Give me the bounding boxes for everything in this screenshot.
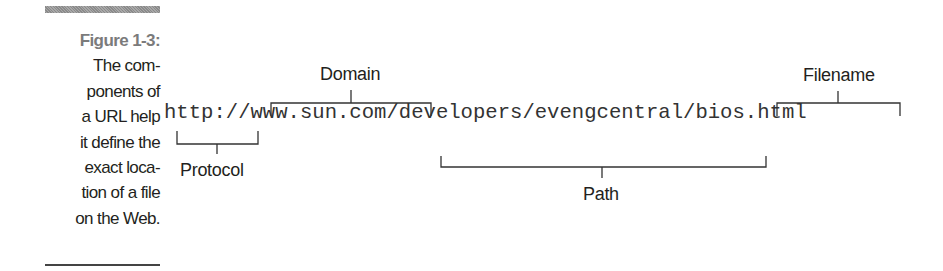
path-label: Path: [583, 184, 619, 205]
protocol-bracket: [177, 131, 258, 154]
path-bracket: [441, 156, 766, 178]
domain-label: Domain: [320, 64, 380, 85]
url-text: http://www.sun.com/developers/evengcentr…: [164, 101, 807, 124]
bracket-lines: [0, 0, 943, 271]
filename-label: Filename: [803, 65, 875, 86]
protocol-label: Protocol: [180, 160, 244, 181]
